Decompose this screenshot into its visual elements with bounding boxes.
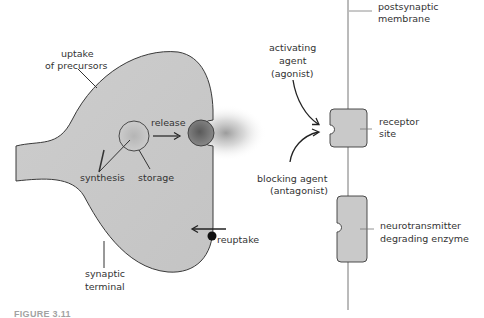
label-storage: storage bbox=[138, 172, 174, 183]
antagonist-arrow-icon bbox=[290, 129, 319, 162]
label-membrane-2: membrane bbox=[378, 13, 430, 24]
label-agonist-1: activating bbox=[269, 42, 316, 53]
uptake-leader-line bbox=[78, 69, 97, 88]
label-uptake-2: of precursors bbox=[45, 60, 108, 71]
label-antagonist-2: (antagonist) bbox=[270, 185, 328, 196]
label-release: release bbox=[151, 117, 186, 128]
release-vesicle bbox=[188, 120, 214, 146]
figure-caption: FIGURE 3.11 bbox=[14, 309, 71, 318]
label-receptor-1: receptor bbox=[379, 116, 419, 127]
label-terminal-2: terminal bbox=[85, 281, 125, 292]
reuptake-transporter-icon bbox=[208, 232, 217, 241]
label-synthesis: synthesis bbox=[80, 172, 125, 183]
label-antagonist-1: blocking agent bbox=[257, 173, 328, 184]
receptor-site-shape bbox=[330, 109, 367, 147]
label-agonist-2: agent bbox=[279, 55, 307, 66]
label-terminal-1: synaptic bbox=[85, 268, 125, 279]
synaptic-terminal-shape bbox=[16, 52, 213, 273]
label-uptake-1: uptake bbox=[61, 48, 94, 59]
label-agonist-3: (agonist) bbox=[271, 68, 313, 79]
agonist-arrow-icon bbox=[293, 80, 319, 125]
label-membrane-1: postsynaptic bbox=[378, 1, 439, 12]
label-reuptake: reuptake bbox=[217, 234, 259, 245]
label-enzyme-1: neurotransmitter bbox=[380, 220, 461, 231]
label-enzyme-2: degrading enzyme bbox=[380, 233, 469, 244]
synapse-diagram: uptake of precursors release synthesis s… bbox=[0, 0, 484, 318]
label-receptor-2: site bbox=[379, 128, 396, 139]
